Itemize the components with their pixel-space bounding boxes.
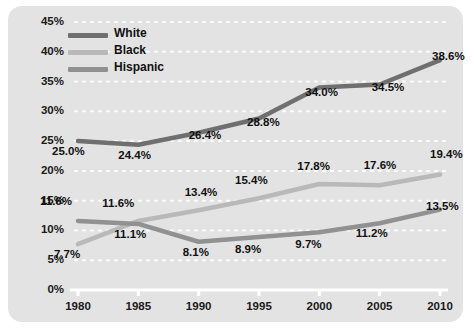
data-point-label: 28.8% xyxy=(247,116,280,128)
data-point-label: 8.9% xyxy=(235,243,261,255)
data-point-label: 17.6% xyxy=(364,159,397,171)
data-point-label: 11.6% xyxy=(102,197,134,209)
y-axis-tick-label: 35% xyxy=(22,75,64,87)
legend-label-white: White xyxy=(114,26,147,40)
data-point-label: 7.7% xyxy=(54,248,80,260)
data-point-label: 13.5% xyxy=(426,200,459,212)
data-point-label: 11.6% xyxy=(40,195,72,207)
data-point-label: 26.4% xyxy=(189,129,222,141)
x-axis-tick-label: 1990 xyxy=(174,300,224,312)
y-axis-tick-label: 20% xyxy=(22,164,64,176)
data-point-label: 38.6% xyxy=(432,50,465,62)
y-axis-tick-label: 30% xyxy=(22,104,64,116)
y-axis-tick-label: 45% xyxy=(22,15,64,27)
data-point-label: 13.4% xyxy=(185,186,218,198)
legend-swatch-hispanic xyxy=(68,67,108,72)
x-axis-tick-label: 2010 xyxy=(415,300,465,312)
data-point-label: 34.5% xyxy=(372,81,405,93)
data-point-label: 19.4% xyxy=(430,148,463,160)
data-point-label: 11.2% xyxy=(356,227,388,239)
data-point-label: 15.4% xyxy=(235,174,268,186)
x-axis-tick-label: 1980 xyxy=(53,300,103,312)
data-point-label: 17.8% xyxy=(297,160,330,172)
y-axis-tick-label: 0% xyxy=(22,283,64,295)
y-axis-tick-label: 10% xyxy=(22,223,64,235)
data-point-label: 9.7% xyxy=(295,238,321,250)
legend-label-hispanic: Hispanic xyxy=(114,60,164,74)
x-axis-tick-label: 1995 xyxy=(234,300,284,312)
legend-swatch-white xyxy=(68,33,108,38)
data-point-label: 34.0% xyxy=(305,86,338,98)
data-point-label: 8.1% xyxy=(183,246,209,258)
data-point-label: 25.0% xyxy=(52,145,85,157)
legend-label-black: Black xyxy=(114,43,146,57)
y-axis-tick-label: 40% xyxy=(22,45,64,57)
x-axis-tick-label: 2000 xyxy=(294,300,344,312)
x-axis-tick-label: 1985 xyxy=(113,300,163,312)
data-point-label: 24.4% xyxy=(118,149,151,161)
legend-swatch-black xyxy=(68,50,108,55)
x-axis-tick-label: 2005 xyxy=(355,300,405,312)
axis-lines xyxy=(70,290,448,296)
data-point-label: 11.1% xyxy=(114,228,146,240)
